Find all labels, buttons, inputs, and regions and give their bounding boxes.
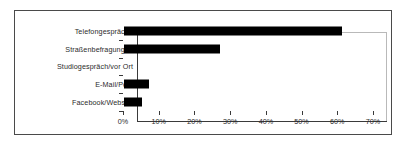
x-axis-tick [373, 111, 374, 115]
bar [124, 80, 149, 89]
x-axis-tick [266, 111, 267, 115]
x-axis-tick [230, 111, 231, 115]
bar-row: Straßenbefragungen [15, 40, 407, 58]
x-axis-tick [123, 111, 124, 115]
x-axis-tick-label: 10% [152, 117, 166, 126]
x-axis-tick-label: 40% [259, 117, 273, 126]
x-axis-tick [302, 111, 303, 115]
x-axis-tick-label: 20% [187, 117, 201, 126]
bar [124, 98, 142, 107]
bar-row: Studiogespräch/vor Ort [15, 58, 407, 76]
x-axis-tick [159, 111, 160, 115]
x-axis-tick-label: 60% [330, 117, 344, 126]
bar [124, 44, 220, 53]
bar [124, 26, 342, 35]
chart-outer-frame: TelefongesprächeStraßenbefragungenStudio… [14, 10, 392, 135]
category-label: Studiogespräch/vor Ort [57, 62, 133, 71]
chart-figure: TelefongesprächeStraßenbefragungenStudio… [0, 0, 409, 148]
bar-row: E-Mail/Post [15, 75, 407, 93]
x-axis-tick-label: 50% [294, 117, 308, 126]
bar-row: Telefongespräche [15, 22, 407, 40]
x-axis-tick [337, 111, 338, 115]
bar-row: Facebook/Website [15, 93, 407, 111]
x-axis-tick-label: 30% [223, 117, 237, 126]
x-axis-tick-label: 0% [118, 117, 128, 126]
category-label: Straßenbefragungen [65, 44, 133, 53]
x-axis-tick [194, 111, 195, 115]
x-axis-tick-label: 70% [366, 117, 380, 126]
